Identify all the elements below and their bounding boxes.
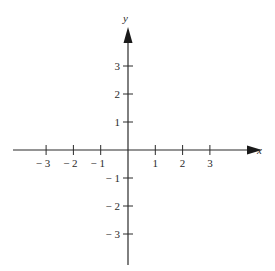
y-tick-label: 2 [115, 88, 121, 100]
x-tick-label: 3 [207, 157, 213, 169]
x-axis-label: x [256, 144, 262, 156]
y-axis-label: y [122, 12, 128, 24]
coordinate-plane: x y − 3− 2− 1123 321− 1− 2− 3 [0, 0, 275, 271]
y-axis-arrow-icon [124, 27, 133, 43]
y-tick-label: − 1 [106, 172, 120, 184]
x-tick-label: 2 [180, 157, 186, 169]
y-tick-label: − 3 [106, 228, 121, 240]
x-tick-label: 1 [153, 157, 159, 169]
y-tick-label: − 2 [106, 200, 120, 212]
y-tick-label: 3 [115, 60, 121, 72]
x-tick-label: − 3 [36, 157, 51, 169]
x-tick-label: − 1 [90, 157, 104, 169]
x-tick-label: − 2 [63, 157, 77, 169]
y-tick-label: 1 [115, 116, 121, 128]
